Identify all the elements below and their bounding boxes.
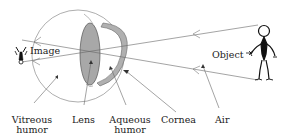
image-label: Image [30,46,60,56]
aqueous-line2: humor [108,125,152,135]
aqueous-arrow [109,66,113,70]
air-label: Air [215,115,229,125]
aqueous-leader [111,68,126,105]
cornea-arrow [123,70,129,74]
air-arrow [201,64,205,68]
lens-label: Lens [72,115,95,125]
object-arrow [246,51,251,55]
aqueous-humor-label: Aqueous humor [108,115,152,135]
cornea-leader [126,71,176,112]
vitreous-leader [34,77,57,103]
cornea [97,23,127,86]
cornea-label: Cornea [161,115,196,125]
vitreous-line2: humor [8,125,56,135]
eyeball-outline [32,10,124,102]
ciliary-top [84,14,93,24]
vitreous-humor-label: Vitreous humor [8,115,56,135]
lens [80,23,100,85]
object-label: Object [212,50,244,60]
object-figure [250,26,277,81]
